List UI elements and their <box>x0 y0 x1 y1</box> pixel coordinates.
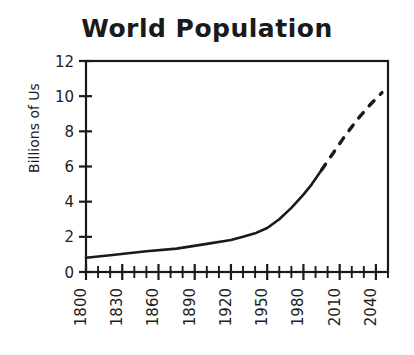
x-tick-label: 1890 <box>181 288 199 326</box>
plot-frame <box>86 61 388 272</box>
x-tick-label: 1830 <box>108 288 126 326</box>
x-tick-label: 1800 <box>72 288 90 326</box>
x-tick-label: 2010 <box>326 288 344 326</box>
x-tick-label: 1920 <box>217 288 235 326</box>
chart-figure: World Population Billions of Us 02468101… <box>0 0 414 355</box>
plot-area: 024681012 180018301860189019201950198020… <box>0 0 414 355</box>
y-tick-label: 2 <box>64 228 74 246</box>
y-tick-label: 10 <box>55 88 74 106</box>
y-tick-label: 0 <box>64 264 74 282</box>
y-tick-label: 12 <box>55 53 74 71</box>
data-series <box>86 93 382 258</box>
projected-line <box>322 93 382 170</box>
y-tick-label: 8 <box>64 123 74 141</box>
x-tick-label: 1980 <box>289 288 307 326</box>
x-tick-label: 2040 <box>362 288 380 326</box>
x-axis-ticks: 180018301860189019201950198020102040 <box>72 264 388 326</box>
x-tick-label: 1860 <box>144 288 162 326</box>
y-tick-label: 6 <box>64 158 74 176</box>
historical-line <box>86 170 322 258</box>
x-tick-label: 1950 <box>253 288 271 326</box>
y-tick-label: 4 <box>64 193 74 211</box>
